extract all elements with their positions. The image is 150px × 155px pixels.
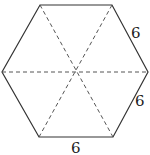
- hexagon-diagram: 6 6 6: [0, 0, 150, 155]
- side-label-bottom-right: 6: [135, 92, 145, 110]
- hexagon-svg: 6 6 6: [0, 0, 150, 155]
- side-label-bottom: 6: [71, 139, 81, 155]
- hexagon-outline: [2, 5, 148, 137]
- diagonal-topleft-bottomright: [40, 5, 113, 137]
- diagonal-topright-bottomleft: [39, 5, 112, 137]
- side-label-top-right: 6: [131, 24, 141, 42]
